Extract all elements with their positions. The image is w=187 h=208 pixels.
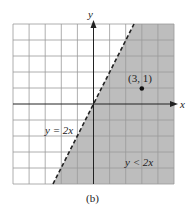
point-label: (3, 1) <box>128 72 152 85</box>
x-axis-label: x <box>179 98 185 110</box>
y-axis-label: y <box>87 8 93 20</box>
point-3-1 <box>140 86 145 91</box>
region-label: y < 2x <box>124 156 153 168</box>
inequality-graph: x y (3, 1) y = 2x y < 2x (b) <box>0 0 187 208</box>
line-equation-label: y = 2x <box>44 124 73 136</box>
caption: (b) <box>86 192 99 205</box>
